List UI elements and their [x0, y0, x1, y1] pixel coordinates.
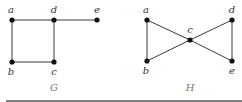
- vertex-label: a: [8, 4, 14, 15]
- vertex-label: a: [143, 4, 149, 15]
- edge-a-c: [147, 20, 190, 40]
- vertex-label: d: [51, 4, 57, 15]
- edge-c-d: [190, 20, 232, 40]
- edge-c-e: [190, 40, 232, 61]
- graph-h: abcdeH: [143, 4, 235, 93]
- vertex-label: e: [229, 65, 235, 76]
- graph-g: adebcG: [8, 4, 100, 93]
- graph-figure: adebcG abcdeH: [0, 0, 242, 102]
- vertex-label: c: [187, 24, 193, 35]
- vertex-e: [94, 17, 99, 22]
- vertex-d: [51, 17, 56, 22]
- vertex-label: e: [94, 4, 100, 15]
- vertex-c: [187, 37, 192, 42]
- vertex-e: [229, 58, 234, 63]
- vertex-label: b: [143, 65, 149, 76]
- graph-label: G: [50, 82, 58, 93]
- graph-label: H: [185, 82, 195, 93]
- vertex-a: [144, 17, 149, 22]
- vertex-label: d: [229, 4, 235, 15]
- edge-b-c: [147, 40, 190, 61]
- vertex-a: [9, 17, 14, 22]
- vertex-label: b: [8, 66, 14, 77]
- vertex-d: [229, 17, 234, 22]
- vertex-c: [51, 59, 56, 64]
- vertex-b: [144, 58, 149, 63]
- vertex-b: [9, 59, 14, 64]
- vertex-label: c: [51, 66, 57, 77]
